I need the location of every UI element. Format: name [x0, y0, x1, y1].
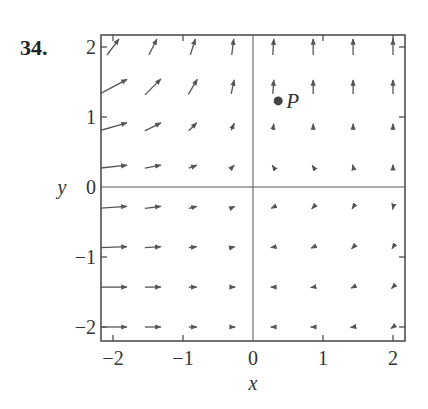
vector-arrow [392, 286, 395, 289]
x-tick-label: 0 [248, 347, 258, 369]
vector-arrow [353, 165, 354, 169]
vector-arrow [189, 206, 197, 208]
vector-arrow [145, 79, 161, 95]
vector-arrow [145, 123, 161, 131]
vector-arrow [312, 206, 315, 209]
vector-arrow [189, 165, 197, 168]
vector-arrow [145, 165, 161, 168]
vector-arrow [99, 123, 127, 131]
vector-arrow [99, 165, 127, 168]
vector-arrow [232, 39, 234, 55]
vector-arrow [311, 246, 315, 248]
point-label: P [285, 89, 299, 113]
vector-field-plot: P −2−1012−2−1012xy [0, 0, 428, 409]
vector-arrow [351, 327, 356, 328]
x-tick-label: −1 [172, 347, 193, 369]
y-tick-label: 0 [86, 176, 96, 198]
x-tick-label: 2 [388, 347, 398, 369]
vector-arrow [145, 247, 161, 248]
vector-arrow [107, 39, 119, 55]
vector-arrow [392, 246, 394, 249]
point-marker [274, 96, 283, 105]
vector-arrow [231, 206, 235, 208]
vector-arrow [352, 206, 354, 209]
vector-arrow [272, 165, 274, 168]
axes [101, 35, 405, 341]
vector-arrow [391, 326, 395, 329]
vector-arrow [99, 247, 127, 248]
vector-arrow [99, 79, 127, 94]
vector-arrow [273, 124, 274, 130]
vector-arrow [351, 286, 355, 288]
vector-arrow [231, 80, 234, 94]
y-tick-label: −1 [75, 246, 96, 268]
annotations: P [274, 89, 300, 113]
vector-arrow [231, 123, 234, 130]
vector-arrow [312, 165, 314, 168]
vector-arrow [273, 39, 274, 55]
vector-arrow [231, 247, 235, 248]
vector-arrow [231, 165, 234, 168]
x-tick-label: −2 [102, 347, 123, 369]
x-tick-label: 1 [318, 347, 328, 369]
vector-arrow [149, 39, 157, 55]
y-tick-label: 1 [86, 106, 96, 128]
vector-arrow [271, 206, 275, 208]
vector-arrow [99, 206, 127, 208]
y-tick-label: −2 [75, 316, 96, 338]
vector-arrow [271, 247, 276, 248]
y-tick-label: 2 [86, 36, 96, 58]
vector-arrow [352, 246, 355, 249]
y-axis-title: y [56, 176, 67, 199]
vector-arrow [190, 39, 195, 55]
vector-arrow [189, 123, 197, 131]
vector-arrow [189, 247, 197, 248]
vector-arrow [145, 206, 161, 208]
vector-arrow [393, 205, 394, 209]
vector-arrows [99, 39, 395, 329]
vector-arrow [188, 79, 197, 94]
x-axis-title: x [248, 372, 258, 394]
vector-arrow [273, 80, 274, 94]
vector-arrow [311, 287, 316, 288]
